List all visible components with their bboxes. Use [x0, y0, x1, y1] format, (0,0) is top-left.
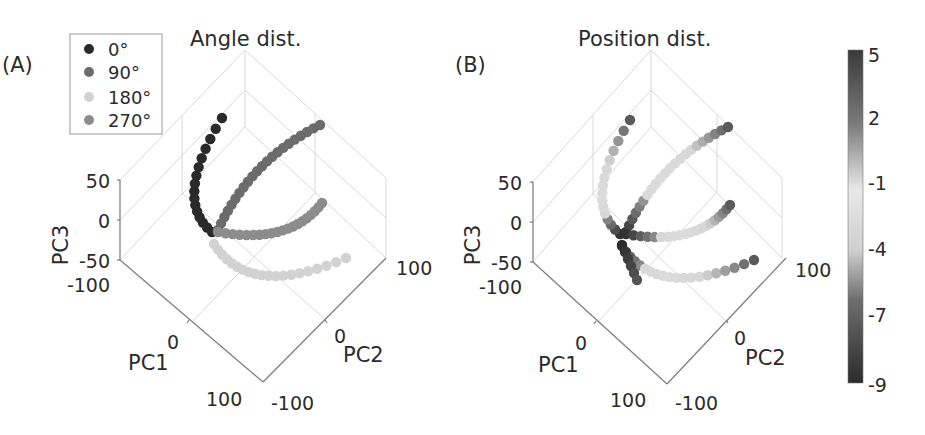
legend-marker-270: [84, 115, 94, 125]
data-point: [625, 115, 635, 125]
pc1-label-b: PC1: [538, 353, 579, 377]
data-point: [341, 253, 351, 263]
panel-b: (B) Position dist. 50 0 -50 -10: [455, 27, 887, 414]
legend-label-180: 180°: [108, 87, 151, 108]
pc3-tick-0-a: 0: [98, 210, 110, 232]
pc1-tick-100-b: 100: [610, 389, 646, 411]
pc3-label-a: PC3: [49, 225, 73, 266]
data-point: [739, 259, 749, 269]
colorbar-tick-neg4: -4: [868, 238, 887, 260]
data-point: [619, 126, 629, 136]
pc3-tick-0-b: 0: [510, 212, 522, 234]
pc2-tick-100-a: 100: [396, 257, 432, 279]
panel-label-b: (B): [455, 53, 486, 77]
data-point: [711, 268, 721, 278]
data-point: [723, 122, 733, 132]
pc1-tick-neg100-a: -100: [67, 274, 110, 296]
pc1-tick-0-a: 0: [167, 331, 179, 353]
figure: (A) Angle dist. 50 0: [0, 0, 925, 435]
scatter-points-a: [189, 113, 351, 281]
data-point: [205, 134, 215, 144]
data-point: [725, 200, 735, 210]
data-point: [720, 266, 730, 276]
pc3-tick-neg50-b: -50: [491, 252, 522, 274]
pc1-tick-neg100-b: -100: [479, 276, 522, 298]
data-point: [312, 264, 322, 274]
pc3-tick-neg50-a: -50: [79, 250, 110, 272]
data-point: [602, 164, 612, 174]
colorbar-tick-neg7: -7: [868, 304, 887, 326]
legend-label-0: 0°: [108, 39, 128, 60]
data-point: [331, 257, 341, 267]
data-point: [729, 263, 739, 273]
scatter-points-b: [597, 115, 759, 285]
panel-title-b: Position dist.: [578, 27, 711, 51]
colorbar-tick-2: 2: [868, 107, 880, 129]
data-point: [217, 113, 227, 123]
pc2-tick-100-b: 100: [795, 259, 831, 281]
legend-marker-0: [84, 44, 94, 54]
data-point: [200, 144, 210, 154]
legend-label-90: 90°: [108, 62, 140, 83]
panel-title-a: Angle dist.: [190, 27, 301, 51]
data-point: [321, 261, 331, 271]
data-point: [749, 255, 759, 265]
panel-label-a: (A): [2, 53, 33, 77]
panel-a: (A) Angle dist. 50 0: [2, 27, 432, 414]
data-point: [197, 153, 207, 163]
pc3-label-b: PC3: [461, 225, 485, 266]
data-point: [605, 155, 615, 165]
legend-label-270: 270°: [108, 110, 151, 131]
data-point: [294, 268, 304, 278]
colorbar-tick-neg9: -9: [868, 374, 887, 396]
legend-marker-90: [84, 67, 94, 77]
data-point: [632, 275, 642, 285]
data-point: [613, 136, 623, 146]
data-point: [317, 198, 327, 208]
pc2-label-b: PC2: [745, 346, 786, 370]
data-point: [194, 162, 204, 172]
pc2-tick-neg100-a: -100: [271, 392, 314, 414]
legend-marker-180: [84, 92, 94, 102]
colorbar: 5 2 -1 -4 -7 -9: [848, 44, 887, 396]
pc2-label-a: PC2: [343, 343, 384, 367]
pc3-tick-50-a: 50: [86, 170, 110, 192]
data-point: [702, 270, 712, 280]
data-point: [211, 124, 221, 134]
pc1-label-a: PC1: [128, 351, 169, 375]
pc1-tick-100-a: 100: [206, 388, 242, 410]
pc2-tick-neg100-b: -100: [675, 392, 718, 414]
data-point: [303, 266, 313, 276]
colorbar-tick-neg1: -1: [868, 172, 887, 194]
pc1-tick-0-b: 0: [575, 332, 587, 354]
legend-a: 0° 90° 180° 270°: [70, 34, 162, 134]
data-point: [315, 120, 325, 130]
colorbar-tick-5: 5: [868, 44, 880, 66]
pc3-tick-50-b: 50: [498, 172, 522, 194]
data-point: [608, 146, 618, 156]
